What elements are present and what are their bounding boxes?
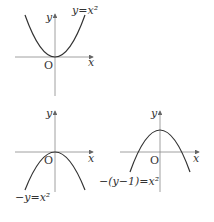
- parabola-diagrams: y x O y=x² y x O −y=x² y x O −(y−1)=x²: [0, 0, 214, 222]
- origin-label: O: [44, 59, 53, 72]
- graph-bottom-right: y x O −(y−1)=x²: [99, 107, 200, 192]
- equation-label: −(y−1)=x²: [99, 175, 159, 188]
- x-axis-label: x: [88, 152, 95, 165]
- equation-label: y=x²: [71, 4, 98, 17]
- y-axis-label: y: [45, 11, 53, 24]
- equation-label: −y=x²: [15, 191, 50, 204]
- graph-bottom-left: y x O −y=x²: [15, 107, 95, 204]
- origin-label: O: [150, 154, 159, 167]
- x-axis-label: x: [88, 56, 95, 69]
- y-axis-label: y: [45, 107, 53, 120]
- origin-label: O: [44, 154, 53, 167]
- y-axis-label: y: [150, 107, 158, 120]
- x-axis-label: x: [193, 152, 200, 165]
- graph-top-left: y x O y=x²: [15, 4, 98, 96]
